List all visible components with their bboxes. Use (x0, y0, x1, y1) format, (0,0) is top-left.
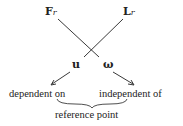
arrow-omega-independent (113, 72, 133, 84)
diagram-lines (0, 0, 183, 126)
line-l-to-u (84, 19, 123, 57)
label-dependent-on: dependent on (9, 89, 65, 100)
l-main: L (123, 5, 131, 18)
line-f-to-omega (58, 19, 99, 57)
arrow-u-dependent (52, 72, 70, 84)
f-main: F (45, 5, 53, 18)
f-sub: r (53, 8, 57, 17)
label-independent-of: independent of (99, 89, 162, 100)
label-u: u (72, 59, 80, 70)
brace-icon (57, 99, 127, 108)
l-sub: r (131, 8, 135, 17)
label-f-r: Fr (45, 6, 57, 17)
label-reference-point: reference point (55, 110, 118, 121)
label-omega: ω (103, 59, 113, 70)
label-l-r: Lr (123, 6, 135, 17)
